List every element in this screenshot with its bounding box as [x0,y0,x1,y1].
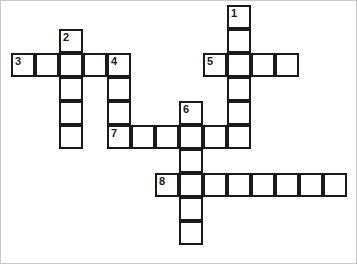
crossword-cell[interactable] [155,125,179,149]
crossword-cell[interactable] [227,173,251,197]
crossword-cell[interactable] [59,125,83,149]
clue-number-6: 6 [183,103,189,115]
crossword-cell[interactable] [227,53,251,77]
crossword-cell[interactable] [227,101,251,125]
crossword-cell[interactable] [179,173,203,197]
crossword-cell[interactable] [251,173,275,197]
crossword-cell-start-6[interactable]: 6 [179,101,203,125]
crossword-cell[interactable] [179,221,203,245]
crossword-cell[interactable] [323,173,347,197]
crossword-cell-start-8[interactable]: 8 [155,173,179,197]
crossword-cell[interactable] [203,173,227,197]
crossword-puzzle-frame: 12345678 [0,0,357,264]
crossword-cell-start-4[interactable]: 4 [107,53,131,77]
crossword-cell[interactable] [227,125,251,149]
crossword-cell[interactable] [131,125,155,149]
crossword-cell[interactable] [179,197,203,221]
crossword-cell[interactable] [35,53,59,77]
crossword-cell-start-2[interactable]: 2 [59,29,83,53]
crossword-cell[interactable] [203,125,227,149]
crossword-cell-start-1[interactable]: 1 [227,5,251,29]
clue-number-1: 1 [231,7,237,19]
clue-number-7: 7 [111,127,117,139]
crossword-cell[interactable] [227,29,251,53]
clue-number-5: 5 [207,55,213,67]
crossword-cell-start-5[interactable]: 5 [203,53,227,77]
crossword-grid[interactable]: 12345678 [1,1,357,264]
clue-number-2: 2 [63,31,69,43]
clue-number-8: 8 [159,175,165,187]
crossword-cell[interactable] [83,53,107,77]
crossword-cell[interactable] [251,53,275,77]
crossword-cell[interactable] [107,77,131,101]
crossword-cell[interactable] [227,77,251,101]
crossword-cell[interactable] [275,173,299,197]
crossword-cell[interactable] [179,125,203,149]
crossword-cell[interactable] [107,101,131,125]
clue-number-3: 3 [15,55,21,67]
crossword-cell-start-3[interactable]: 3 [11,53,35,77]
crossword-cell-start-7[interactable]: 7 [107,125,131,149]
crossword-cell[interactable] [179,149,203,173]
crossword-cell[interactable] [59,53,83,77]
crossword-cell[interactable] [59,101,83,125]
crossword-cell[interactable] [59,77,83,101]
crossword-cell[interactable] [299,173,323,197]
clue-number-4: 4 [111,55,117,67]
crossword-cell[interactable] [275,53,299,77]
